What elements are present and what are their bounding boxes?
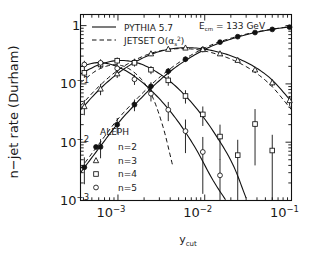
- series-n-4-point: [270, 148, 275, 153]
- series-n-5-point: [82, 62, 87, 67]
- plot-frame: [81, 15, 292, 201]
- legend-marker-n-5: [94, 185, 99, 190]
- legend-label-n-5: n=5: [118, 183, 137, 193]
- y-axis-label: n−jet rate (Durham): [6, 46, 21, 179]
- y-tick-label: 10−3: [60, 192, 89, 208]
- legend-label-pythia: PYTHIA 5.7: [124, 23, 173, 33]
- series-n-4-point: [235, 153, 240, 158]
- y-tick-label: 10−2: [60, 134, 89, 150]
- legend-title-aleph: ALEPH: [100, 127, 129, 137]
- x-axis-label: ycut: [179, 233, 197, 248]
- series-n-2-point: [218, 40, 223, 45]
- series-n-5-point: [115, 66, 120, 71]
- n-jet-rate-durham-plot: 10−310−210−1110−110−210−3n−jet rate (Dur…: [0, 0, 318, 261]
- series-n-2-point: [166, 69, 171, 74]
- legend-label-n-3: n=3: [118, 156, 137, 166]
- legend-marker-n-3: [93, 158, 98, 163]
- series-n-5-point: [200, 150, 205, 155]
- legend-label-n-4: n=4: [118, 169, 137, 179]
- x-tick-label: 10−1: [270, 204, 299, 220]
- series-n-2-point: [82, 165, 87, 170]
- legend-label-n-2: n=2: [118, 142, 137, 152]
- series-n-5-point: [132, 77, 137, 82]
- series-n-3-point: [252, 67, 257, 72]
- y-tick-label: 1: [72, 18, 80, 33]
- legend-marker-n-4: [94, 172, 99, 177]
- series-n-4-point: [166, 78, 171, 83]
- x-tick-label: 10−2: [183, 204, 212, 220]
- series-n-4-point: [183, 94, 188, 99]
- legend-marker-n-2: [94, 145, 99, 150]
- series-n-4-point: [218, 134, 223, 139]
- energy-annotation: Ecm = 133 GeV: [199, 21, 266, 32]
- series-n-5-point: [166, 107, 171, 112]
- series-n-2-point: [132, 102, 137, 107]
- series-n-4-point: [132, 61, 137, 66]
- series-n-2-point: [183, 57, 188, 62]
- series-n-2-point: [98, 145, 103, 150]
- series-n-5-point: [149, 91, 154, 96]
- series-n-4-point: [201, 112, 206, 117]
- series-n-5-point: [218, 173, 223, 178]
- chart-figure: 10−310−210−1110−110−210−3n−jet rate (Dur…: [0, 0, 318, 261]
- series-n-4-point: [253, 122, 258, 127]
- series-n-2-point: [235, 34, 240, 39]
- series-n-2-point: [287, 25, 292, 30]
- series-n-2-point: [270, 27, 275, 32]
- series-n-4-point: [82, 71, 87, 76]
- x-tick-label: 10−3: [96, 204, 125, 220]
- series-n-5-point: [183, 129, 188, 134]
- series-n-4-point: [149, 67, 154, 72]
- series-n-4-point: [115, 58, 120, 63]
- series-n-5-point: [98, 60, 103, 65]
- legend-label-jetset: JETSET O(αs2): [123, 35, 184, 47]
